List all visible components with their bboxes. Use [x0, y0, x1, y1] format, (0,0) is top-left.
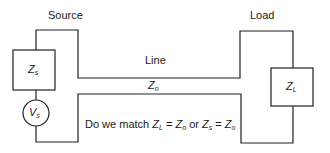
source-label: Source [48, 10, 83, 21]
zl-label: ZL [286, 81, 297, 93]
matching-question: Do we match ZL = Zo or Zs = Zo [85, 119, 235, 131]
line-label: Line [145, 55, 166, 66]
zo-label: Zo [148, 80, 159, 92]
vs-label: Vs [29, 107, 40, 119]
load-label: Load [250, 10, 274, 21]
zs-label: Zs [28, 64, 38, 76]
